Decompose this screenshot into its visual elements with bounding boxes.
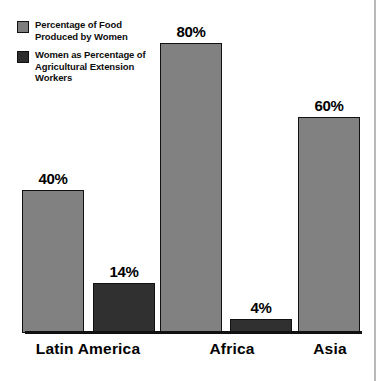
bar-value-africa-extension: 4% [230,299,292,316]
plot-area: 40% 14% 80% 4% 60% Latin America Africa … [0,0,382,381]
bar-value-asia-food: 60% [298,97,360,114]
x-axis-label-africa: Africa [182,340,282,358]
bar-asia-food [298,117,360,333]
x-axis-label-latin-america: Latin America [8,340,168,358]
x-axis-baseline [25,331,362,334]
bar-value-africa-food: 80% [160,23,222,40]
x-axis-label-asia: Asia [290,340,370,358]
bar-value-latin-america-food: 40% [22,170,84,187]
chart-canvas: Percentage of Food Produced by Women Wom… [0,0,382,381]
bar-latin-america-extension [93,283,155,333]
bar-africa-food [160,43,222,333]
bar-latin-america-food [22,190,84,333]
bar-value-latin-america-extension: 14% [93,263,155,280]
